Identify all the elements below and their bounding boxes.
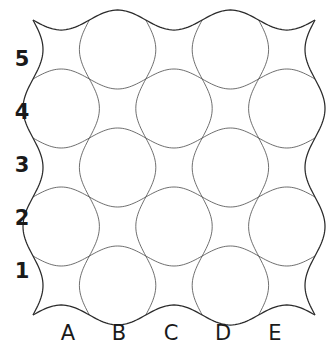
column-label-B: B	[112, 321, 126, 345]
row-label-3: 3	[15, 153, 30, 177]
row-label-2: 2	[15, 206, 30, 230]
column-label-D: D	[215, 321, 231, 345]
column-label-C: C	[164, 321, 179, 345]
figure-background	[0, 0, 333, 354]
row-label-4: 4	[15, 100, 30, 124]
column-label-E: E	[268, 321, 281, 345]
row-label-1: 1	[15, 259, 30, 283]
row-label-5: 5	[15, 47, 30, 71]
wavy-grid-figure: 54321 ABCDE	[0, 0, 333, 354]
column-label-A: A	[61, 321, 76, 345]
